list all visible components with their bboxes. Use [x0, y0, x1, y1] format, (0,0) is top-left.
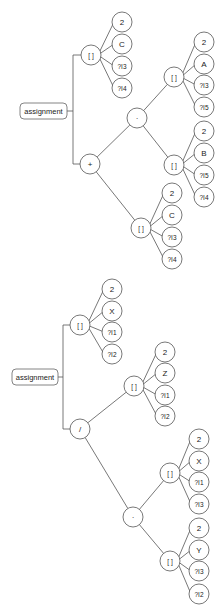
tree-edge [177, 439, 191, 473]
node-label: · [132, 513, 135, 522]
leaf-node: 2 [194, 121, 214, 141]
tree-nodes: 2C?I3?I42A?I3?I52B?I5?I42C?I3?I4assignme… [12, 12, 214, 604]
operator-node: · [127, 108, 147, 128]
leaf-node: X [102, 301, 122, 321]
operator-node: · [123, 507, 143, 527]
node-label: + [88, 160, 93, 169]
node-label: ?I5 [199, 172, 208, 179]
node-label: 2 [197, 524, 202, 533]
operator-node: [ ] [131, 218, 151, 238]
node-label: C [169, 211, 175, 220]
node-label: B [201, 149, 206, 158]
tree-edge [143, 126, 168, 157]
tree-edge [181, 131, 196, 165]
tree-edge [98, 22, 114, 55]
assignment-root: assignment [12, 369, 58, 385]
operator-node: [ ] [164, 155, 184, 175]
node-label: C [119, 40, 125, 49]
leaf-node: 2 [155, 342, 175, 362]
leaf-node: ?I2 [155, 406, 175, 426]
node-label: X [196, 457, 202, 466]
node-label: 2 [120, 18, 125, 27]
node-label: ?I2 [107, 351, 116, 358]
node-label: 2 [170, 189, 175, 198]
leaf-node: A [194, 54, 214, 74]
tree-edges [58, 22, 196, 594]
node-label: 2 [110, 285, 115, 294]
tree-edge [87, 289, 104, 325]
leaf-node: 2 [194, 32, 214, 52]
tree-edge [97, 125, 130, 157]
leaf-node: C [162, 205, 182, 225]
leaf-node: ?I1 [189, 472, 209, 492]
node-label: · [136, 114, 139, 123]
operator-node: [ ] [160, 463, 180, 483]
operator-node: [ ] [164, 67, 184, 87]
node-label: ?I3 [194, 501, 203, 508]
leaf-node: ?I2 [189, 584, 209, 604]
tree-edge [85, 438, 128, 509]
node-label: 2 [197, 435, 202, 444]
tree-edge [148, 193, 164, 228]
node-label: 2 [202, 38, 207, 47]
tree-edge [144, 84, 168, 110]
node-label: A [201, 60, 207, 69]
leaf-node: Z [155, 363, 175, 383]
node-label: [ ] [138, 225, 144, 233]
assignment-root: assignment [20, 103, 67, 119]
node-label: [ ] [167, 558, 173, 566]
operator-node: [ ] [81, 45, 101, 65]
root-label: assignment [24, 107, 63, 116]
tree-edge [139, 525, 163, 554]
leaf-node: Y [189, 540, 209, 560]
leaf-node: ?I3 [112, 56, 132, 76]
node-label: ?I4 [167, 256, 176, 263]
node-label: ?I3 [199, 82, 208, 89]
node-label: ?I3 [117, 63, 126, 70]
operator-node: [ ] [160, 551, 180, 571]
leaf-node: ?I3 [162, 227, 182, 247]
tree-edge [139, 481, 163, 510]
leaf-node: 2 [112, 12, 132, 32]
tree-edge [96, 172, 135, 220]
leaf-node: 2 [189, 429, 209, 449]
node-label: ?I3 [194, 568, 203, 575]
leaf-node: ?I4 [194, 187, 214, 207]
node-label: [ ] [88, 52, 94, 60]
expression-tree-diagram: 2C?I3?I42A?I3?I52B?I5?I42C?I3?I4assignme… [0, 0, 221, 616]
tree-edge [141, 352, 157, 386]
leaf-node: ?I3 [194, 75, 214, 95]
leaf-node: X [189, 451, 209, 471]
operator-node: [ ] [124, 376, 144, 396]
leaf-node: ?I2 [102, 344, 122, 364]
leaf-node: ?I3 [189, 561, 209, 581]
root-label: assignment [16, 373, 55, 382]
leaf-node: C [112, 34, 132, 54]
node-label: ?I3 [167, 234, 176, 241]
node-label: ?I4 [117, 85, 126, 92]
leaf-node: 2 [189, 518, 209, 538]
leaf-node: ?I5 [194, 97, 214, 117]
node-label: [ ] [131, 383, 137, 391]
node-label: X [109, 307, 115, 316]
leaf-node: 2 [102, 279, 122, 299]
tree-edge [181, 42, 196, 77]
leaf-node: ?I5 [194, 165, 214, 185]
node-label: ?I4 [199, 194, 208, 201]
node-label: ?I5 [199, 104, 208, 111]
operator-node: / [70, 419, 90, 439]
leaf-node: B [194, 143, 214, 163]
node-label: ?I1 [107, 329, 116, 336]
node-label: [ ] [171, 74, 177, 82]
node-label: ?I1 [194, 479, 203, 486]
node-label: [ ] [171, 162, 177, 170]
leaf-node: ?I1 [102, 322, 122, 342]
leaf-node: 2 [162, 183, 182, 203]
leaf-node: ?I4 [162, 249, 182, 269]
node-label: Z [163, 369, 168, 378]
node-label: ?I2 [194, 591, 203, 598]
tree-edge [98, 55, 114, 88]
node-label: [ ] [77, 322, 83, 330]
tree-edge [87, 325, 104, 354]
operator-node: + [80, 154, 100, 174]
